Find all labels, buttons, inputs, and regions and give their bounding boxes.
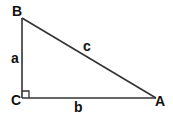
side-label-c: c — [83, 39, 91, 53]
side-label-a: a — [11, 51, 19, 65]
right-triangle-diagram: B C A a b c — [0, 0, 173, 116]
vertex-label-b: B — [12, 4, 22, 18]
triangle-graphic — [0, 0, 173, 116]
side-label-b: b — [74, 100, 83, 114]
side-c-line — [22, 18, 156, 98]
right-angle-marker — [22, 91, 29, 98]
vertex-label-a: A — [155, 94, 165, 108]
vertex-label-c: C — [11, 93, 21, 107]
